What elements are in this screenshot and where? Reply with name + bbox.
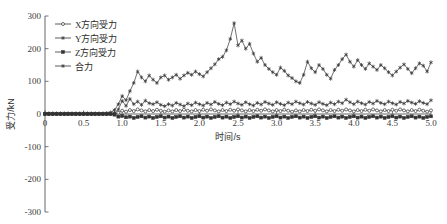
marker-circle [387,110,390,113]
marker-square [225,115,228,118]
marker-circle [167,109,170,112]
marker-square [213,115,216,118]
marker-circle [267,109,270,112]
marker-circle [306,110,309,113]
marker-square [175,115,178,118]
marker-square [256,115,259,118]
marker-circle [402,109,405,112]
marker-circle [360,110,363,113]
legend-item-2[interactable]: Y方向受力 [55,33,118,44]
marker-circle [121,109,124,112]
marker-square [244,115,247,118]
marker-square [202,116,205,119]
marker-circle [414,110,417,113]
y-tick-label: 0 [37,109,42,119]
marker-circle [372,108,375,111]
marker-square [368,115,371,118]
marker-circle [209,108,212,111]
marker-circle [341,109,344,112]
y-tick-label: 200 [28,44,42,54]
marker-square [391,115,394,118]
marker-square [229,116,232,119]
marker-circle [422,109,425,112]
marker-circle [418,108,421,111]
marker-square [144,116,147,119]
marker-square [406,115,409,118]
marker-square [233,115,236,118]
marker-square [375,116,378,119]
marker-square [352,115,355,118]
marker-square [341,115,344,118]
x-tick-label: 4.5 [387,118,399,128]
marker-circle [364,108,367,111]
marker-square [379,115,382,118]
marker-square [267,116,270,119]
marker-circle [237,108,240,111]
marker-circle [132,110,135,113]
marker-circle [117,111,120,114]
marker-circle [356,109,359,112]
marker-square [132,116,135,119]
marker-circle [240,109,243,112]
marker-circle [62,23,65,26]
marker-square [387,115,390,118]
y-tick-label: -100 [25,142,42,152]
marker-circle [368,109,371,112]
marker-square [294,115,297,118]
marker-circle [345,108,348,111]
marker-circle [325,110,328,113]
marker-circle [244,110,247,113]
legend-item-3[interactable]: Z方向受力 [55,47,117,58]
marker-circle [217,110,220,113]
marker-circle [333,110,336,113]
marker-square [260,116,263,119]
marker-square [113,113,116,116]
marker-square [159,115,162,118]
marker-square [356,116,359,119]
marker-circle [179,110,182,113]
marker-square [314,115,317,118]
legend-item-1[interactable]: X方向受力 [55,19,118,30]
x-tick-label: 3.5 [310,118,322,128]
marker-circle [379,110,382,113]
marker-square [194,115,197,118]
marker-square [136,115,139,118]
marker-square [298,116,301,119]
y-tick-label: -200 [25,174,42,184]
marker-square [291,115,294,118]
marker-circle [229,108,232,111]
marker-circle [298,110,301,113]
marker-square [155,115,158,118]
x-tick-label: 2.5 [232,118,244,128]
marker-circle [175,109,178,112]
marker-circle [399,108,402,111]
y-axis-title: 受力/kN [5,98,16,130]
marker-circle [375,109,378,112]
marker-square [163,116,166,119]
marker-circle [140,109,143,112]
x-tick-label: 3.0 [271,118,283,128]
marker-circle [348,109,351,112]
marker-circle [171,110,174,113]
marker-circle [152,110,155,113]
marker-circle [213,109,216,112]
legend-label: X方向受力 [75,19,118,30]
x-tick-label: 2.0 [194,118,206,128]
marker-circle [310,108,313,111]
marker-square [430,115,433,118]
marker-circle [426,110,429,113]
legend-item-4[interactable]: 合力 [55,61,93,72]
marker-square [182,116,185,119]
marker-square [310,115,313,118]
marker-circle [294,109,297,112]
marker-circle [155,108,158,111]
x-tick-label: 0 [43,118,48,128]
marker-circle [337,108,340,111]
marker-square [333,115,336,118]
marker-square [167,115,170,118]
legend-label: 合力 [75,61,93,72]
marker-circle [136,108,139,111]
marker-square [306,116,309,119]
marker-square [221,116,224,119]
marker-square [383,116,386,119]
